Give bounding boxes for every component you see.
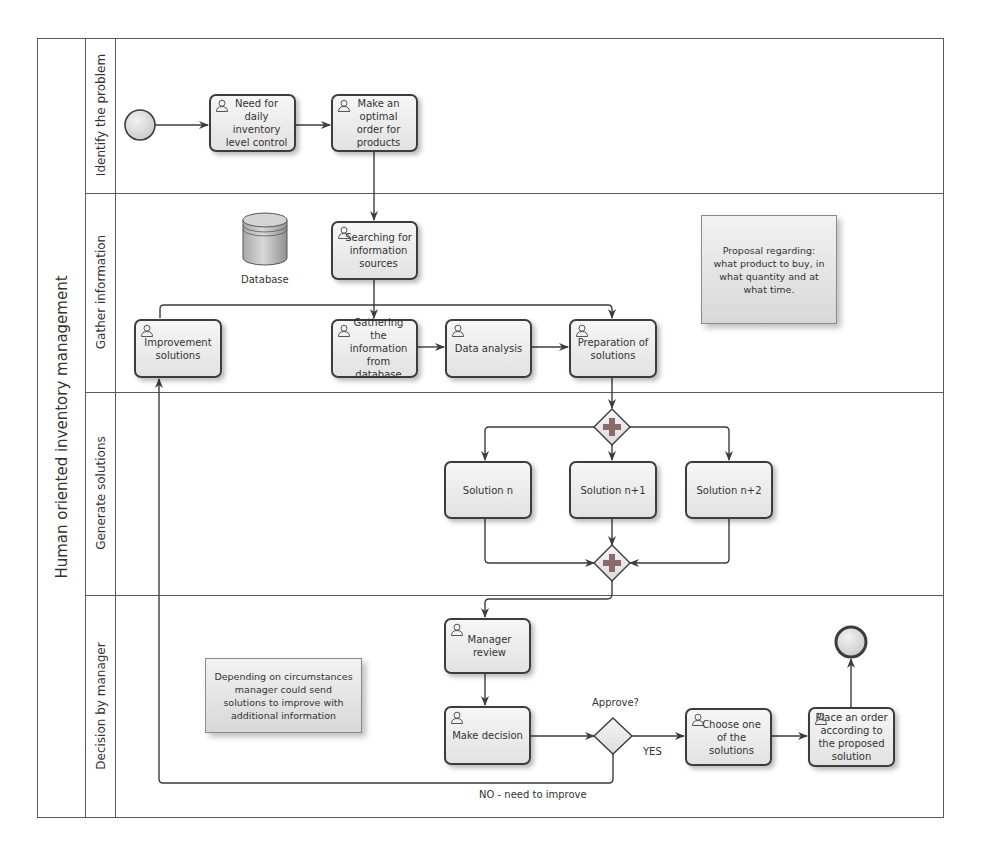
task-label: Improvement solutions (140, 336, 216, 362)
task-searching-sources[interactable]: Searching for information sources (331, 221, 418, 280)
task-label: Data analysis (455, 342, 523, 355)
task-label: Solution n+2 (697, 484, 762, 497)
end-event[interactable] (836, 627, 866, 657)
task-make-optimal-order[interactable]: Make an optimal order for products (331, 94, 418, 152)
user-icon (337, 226, 351, 239)
annotation-text: Depending on circumstances manager could… (214, 670, 353, 722)
annotation-proposal: Proposal regarding: what product to buy,… (701, 215, 837, 324)
task-solution-n-plus-1[interactable]: Solution n+1 (569, 461, 657, 519)
flow-solution-n-to-merge (485, 518, 594, 563)
user-icon (215, 99, 229, 112)
task-label: Manager review (450, 633, 525, 659)
task-gathering-information[interactable]: Gathering the information from database (331, 319, 418, 378)
flow-split-to-solution-n (485, 427, 595, 460)
task-label: Solution n (463, 484, 513, 497)
task-label: Preparation of solutions (575, 336, 651, 362)
user-icon (140, 324, 154, 337)
annotation-text: Proposal regarding: what product to buy,… (710, 244, 828, 296)
flow-solution-n2-to-merge (630, 518, 729, 563)
task-make-decision[interactable]: Make decision (444, 706, 531, 765)
database-icon[interactable] (243, 213, 287, 265)
parallel-merge-gateway[interactable] (594, 545, 630, 581)
user-icon (691, 713, 705, 726)
user-icon (450, 711, 464, 724)
task-improvement-solutions[interactable]: Improvement solutions (134, 319, 222, 378)
task-solution-n[interactable]: Solution n (444, 461, 532, 519)
parallel-split-gateway[interactable] (594, 409, 630, 445)
database-label: Database (241, 274, 289, 285)
annotation-depending-on-circumstances: Depending on circumstances manager could… (205, 658, 362, 733)
task-manager-review[interactable]: Manager review (444, 618, 531, 674)
approve-gateway-label: Approve? (592, 697, 639, 708)
bpmn-diagram: Human oriented inventory management Iden… (0, 0, 981, 860)
user-icon (450, 623, 464, 636)
yes-flow-label: YES (643, 746, 662, 757)
user-icon (337, 324, 351, 337)
task-place-order[interactable]: Place an order according to the proposed… (808, 707, 895, 767)
task-label: Solution n+1 (581, 484, 646, 497)
exclusive-approve-gateway[interactable] (594, 718, 632, 754)
start-event[interactable] (125, 110, 155, 140)
user-icon (814, 712, 828, 725)
task-preparation-of-solutions[interactable]: Preparation of solutions (569, 319, 657, 378)
user-icon (451, 324, 465, 337)
task-data-analysis[interactable]: Data analysis (445, 319, 532, 378)
task-label: Make decision (452, 729, 523, 742)
flow-merge-to-review (485, 581, 612, 617)
user-icon (575, 324, 589, 337)
flow-split-to-solution-n2 (629, 427, 729, 460)
user-icon (337, 99, 351, 112)
task-choose-one-solution[interactable]: Choose one of the solutions (685, 708, 772, 766)
task-need-inventory-control[interactable]: Need for daily inventory level control (209, 94, 296, 152)
task-solution-n-plus-2[interactable]: Solution n+2 (685, 461, 773, 519)
no-flow-label: NO - need to improve (479, 789, 587, 800)
